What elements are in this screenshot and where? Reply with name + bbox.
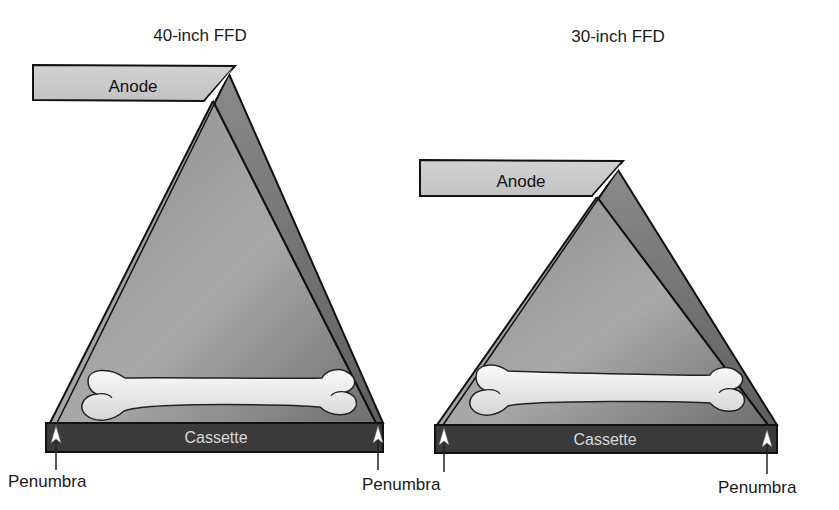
anode-label: Anode bbox=[496, 172, 545, 191]
cassette-label: Cassette bbox=[573, 431, 636, 448]
panel-title: 40-inch FFD bbox=[153, 26, 247, 45]
penumbra-label-right: Penumbra bbox=[362, 475, 441, 494]
penumbra-label-right: Penumbra bbox=[718, 478, 797, 497]
panel-30-inch-ffd: 30-inch FFD Anode Cassette Penumbra bbox=[420, 27, 797, 497]
ffd-diagram: 40-inch FFD Anode Cassette Penumbra Penu… bbox=[0, 0, 839, 510]
anode-label: Anode bbox=[108, 77, 157, 96]
penumbra-label-left: Penumbra bbox=[8, 472, 87, 491]
panel-title: 30-inch FFD bbox=[571, 27, 665, 46]
panel-40-inch-ffd: 40-inch FFD Anode Cassette Penumbra Penu… bbox=[8, 26, 441, 494]
cassette-label: Cassette bbox=[184, 429, 247, 446]
